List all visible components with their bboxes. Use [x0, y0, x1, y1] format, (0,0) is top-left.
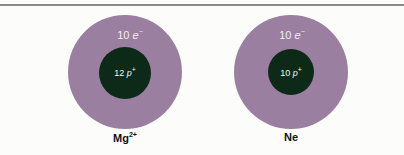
ne-label: Ne [261, 131, 321, 143]
divider-line [0, 4, 404, 6]
mg-proton-count: 12 p+ [100, 66, 150, 78]
mg-electron-count: 10 e− [100, 28, 160, 41]
diagram: 10 e− 12 p+ Mg2+ 10 e− 10 p+ Ne [0, 0, 404, 155]
ne-electron-count: 10 e− [262, 28, 322, 41]
ne-proton-count: 10 p+ [266, 66, 316, 78]
mg-label: Mg2+ [95, 131, 155, 144]
